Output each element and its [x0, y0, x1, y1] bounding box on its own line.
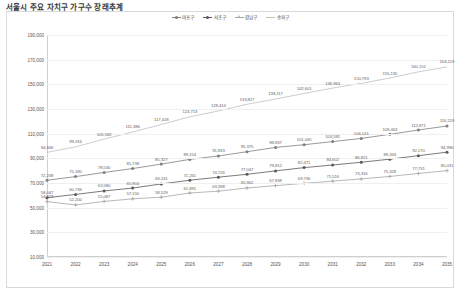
legend-label-0: 마포구 — [182, 14, 194, 20]
y-axis-tick: 90,000 — [30, 156, 44, 161]
data-label: 71,516 — [326, 174, 339, 179]
data-label: 75,180 — [69, 169, 82, 174]
data-label: 72,261 — [184, 173, 197, 178]
legend-item-2[interactable]: 강남구 — [235, 14, 258, 20]
data-label: 150,793 — [354, 76, 369, 81]
data-label: 69,241 — [155, 176, 168, 181]
data-label: 89,343 — [384, 152, 397, 157]
legend-item-3[interactable]: 송파구 — [266, 14, 289, 20]
data-label: 95,375 — [241, 144, 254, 149]
chart-legend: 마포구서초구강남구송파구 — [7, 14, 453, 20]
data-point[interactable] — [74, 193, 77, 196]
legend-item-0[interactable]: 마포구 — [172, 14, 195, 20]
y-axis-tick: 70,000 — [30, 181, 44, 186]
data-point[interactable] — [274, 169, 277, 172]
data-point[interactable] — [331, 163, 334, 166]
data-point[interactable] — [246, 150, 249, 153]
data-label: 72,238 — [41, 173, 54, 178]
gridline — [47, 158, 447, 159]
data-label: 146,964 — [325, 81, 340, 86]
data-point[interactable] — [360, 137, 363, 140]
data-label: 155,135 — [382, 71, 397, 76]
x-axis-tick: 2027 — [213, 262, 223, 267]
data-point[interactable] — [159, 195, 163, 199]
data-label: 69,736 — [298, 176, 311, 181]
gridline — [47, 109, 447, 110]
gridline — [47, 257, 447, 258]
y-axis-tick: 130,000 — [27, 107, 44, 112]
data-label: 54,923 — [41, 194, 54, 199]
data-label: 128,414 — [211, 103, 226, 108]
x-axis-tick: 2028 — [242, 262, 252, 267]
data-point[interactable] — [188, 191, 192, 195]
data-point[interactable] — [246, 173, 249, 176]
data-label: 84,602 — [326, 157, 339, 162]
legend-label-2: 강남구 — [245, 14, 257, 20]
data-point[interactable] — [274, 184, 278, 188]
data-label: 123,713 — [182, 109, 197, 114]
data-label: 74,726 — [212, 170, 225, 175]
data-point[interactable] — [102, 200, 106, 204]
legend-label-1: 서초구 — [214, 14, 226, 20]
data-label: 82,471 — [298, 160, 311, 165]
data-point[interactable] — [74, 203, 78, 207]
data-point[interactable] — [446, 151, 449, 154]
data-point[interactable] — [45, 200, 49, 204]
data-point[interactable] — [303, 143, 306, 146]
plot-area: 190,000170,000150,000130,000110,00090,00… — [47, 35, 447, 257]
data-label: 116,219 — [440, 118, 455, 123]
x-axis-tick: 2032 — [356, 262, 366, 267]
data-label: 91,933 — [212, 148, 225, 153]
data-label: 73,316 — [355, 171, 368, 176]
data-point[interactable] — [417, 129, 420, 132]
data-point[interactable] — [46, 179, 49, 182]
data-label: 94,996 — [441, 145, 454, 150]
data-label: 57,156 — [126, 191, 139, 196]
x-axis-tick: 2024 — [128, 262, 138, 267]
data-point[interactable] — [331, 140, 334, 143]
data-point[interactable] — [217, 176, 220, 179]
gridline — [47, 35, 447, 36]
data-label: 142,601 — [297, 86, 312, 91]
gridline — [47, 84, 447, 85]
data-label: 112,971 — [411, 123, 426, 128]
data-point[interactable] — [74, 175, 77, 178]
data-label: 98,837 — [269, 140, 282, 145]
data-point[interactable] — [217, 189, 221, 193]
data-point[interactable] — [359, 177, 363, 181]
legend-item-1[interactable]: 서초구 — [203, 14, 226, 20]
data-point[interactable] — [131, 197, 135, 201]
data-point[interactable] — [445, 169, 449, 173]
x-axis-tick: 2030 — [299, 262, 309, 267]
data-point[interactable] — [131, 167, 134, 170]
data-point[interactable] — [188, 179, 191, 182]
data-label: 58,529 — [155, 190, 168, 195]
x-axis-tick: 2025 — [156, 262, 166, 267]
data-label: 77,047 — [241, 167, 254, 172]
data-label: 101,045 — [297, 137, 312, 142]
data-point[interactable] — [274, 146, 277, 149]
x-axis-tick: 2031 — [328, 262, 338, 267]
y-axis-tick: 50,000 — [30, 205, 44, 210]
data-point[interactable] — [446, 124, 449, 127]
data-point[interactable] — [388, 175, 392, 179]
data-point[interactable] — [417, 172, 421, 176]
x-axis-tick: 2021 — [42, 262, 52, 267]
data-label: 92,170 — [412, 148, 425, 153]
data-label: 60,736 — [69, 187, 82, 192]
legend-swatch-0 — [172, 17, 181, 18]
data-label: 77,731 — [412, 166, 425, 171]
y-axis-tick: 190,000 — [27, 33, 44, 38]
data-point[interactable] — [217, 154, 220, 157]
data-point[interactable] — [245, 186, 249, 190]
data-point[interactable] — [303, 166, 306, 169]
gridline — [47, 208, 447, 209]
data-point[interactable] — [360, 161, 363, 164]
data-point[interactable] — [131, 187, 134, 190]
data-point[interactable] — [417, 154, 420, 157]
data-point[interactable] — [103, 171, 106, 174]
data-label: 109,463 — [382, 127, 397, 132]
data-point[interactable] — [160, 163, 163, 166]
data-label: 67,838 — [269, 178, 282, 183]
data-point[interactable] — [103, 189, 106, 192]
